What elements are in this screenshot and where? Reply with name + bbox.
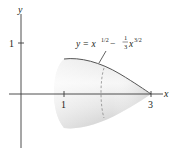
solid-surface	[54, 59, 151, 129]
svg-text:3/2: 3/2	[134, 37, 142, 43]
curve-equation-label: y = x 1/2 − 1 3 x 3/2	[75, 34, 142, 50]
solid-of-revolution-figure: y x 1 1 3 y = x 1/2 − 1 3 x 3/2	[0, 0, 177, 153]
curve-leader-line	[99, 51, 106, 63]
svg-text:1: 1	[124, 34, 127, 41]
svg-text:−: −	[110, 39, 115, 49]
x-axis-label: x	[163, 88, 169, 99]
svg-text:1/2: 1/2	[101, 37, 109, 43]
svg-text:y = x: y = x	[75, 39, 96, 49]
figure-canvas: y x 1 1 3 y = x 1/2 − 1 3 x 3/2	[0, 0, 177, 153]
x-tick-label-1: 1	[61, 99, 66, 110]
y-axis-label: y	[17, 4, 23, 15]
svg-text:3: 3	[124, 43, 127, 50]
y-tick-label-1: 1	[9, 38, 14, 49]
x-tick-label-3: 3	[148, 99, 153, 110]
